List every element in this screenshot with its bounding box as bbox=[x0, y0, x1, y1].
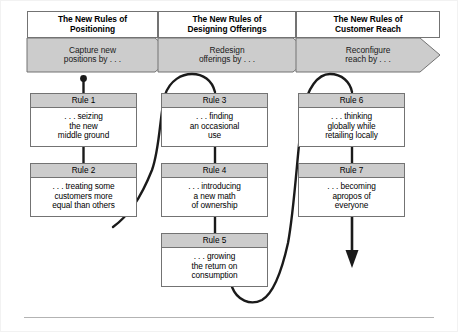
rule-1-text: . . . seizing the new middle ground bbox=[31, 108, 136, 146]
rule-4-line3: of ownership bbox=[188, 201, 241, 211]
rule-1-line3: middle ground bbox=[58, 131, 109, 141]
rule-2-label: Rule 2 bbox=[31, 164, 136, 178]
column-2-title-line2: Designing Offerings bbox=[187, 24, 266, 34]
rule-box-2: Rule 2 . . . treating some customers mor… bbox=[30, 163, 137, 217]
column-1-title-line2: Positioning bbox=[70, 24, 115, 34]
rule-box-1: Rule 1 . . . seizing the new middle grou… bbox=[30, 93, 137, 147]
rule-6-line3: retailing locally bbox=[325, 131, 378, 141]
column-2-subtitle: Redesign offerings by . . . bbox=[158, 38, 296, 72]
header-column-3: The New Rules of Customer Reach Reconfig… bbox=[296, 11, 440, 72]
rule-box-3: Rule 3 . . . finding an occasional use bbox=[161, 93, 268, 147]
rule-7-line3: everyone bbox=[327, 201, 375, 211]
rule-box-5: Rule 5 . . . growing the return on consu… bbox=[161, 233, 268, 287]
column-3-title: The New Rules of Customer Reach bbox=[296, 11, 440, 38]
rule-box-4: Rule 4 . . . introducing a new math of o… bbox=[161, 163, 268, 217]
rule-box-7: Rule 7 . . . becoming apropos of everyon… bbox=[298, 163, 405, 217]
rule-6-text: . . . thinking globally while retailing … bbox=[299, 108, 404, 146]
column-1-subtitle-line2: positions by . . . bbox=[64, 54, 121, 64]
header-column-1: The New Rules of Positioning Capture new… bbox=[27, 11, 158, 72]
column-3-subtitle: Reconfigure reach by . . . bbox=[296, 38, 440, 72]
rule-2-line3: equal than others bbox=[52, 201, 114, 211]
rule-6-label: Rule 6 bbox=[299, 94, 404, 108]
header-column-2: The New Rules of Designing Offerings Red… bbox=[158, 11, 296, 72]
rule-3-line3: use bbox=[190, 131, 239, 141]
column-1-title: The New Rules of Positioning bbox=[27, 11, 158, 38]
rule-4-label: Rule 4 bbox=[162, 164, 267, 178]
rule-7-text: . . . becoming apropos of everyone bbox=[299, 178, 404, 216]
rule-5-text: . . . growing the return on consumption bbox=[162, 248, 267, 286]
rule-7-label: Rule 7 bbox=[299, 164, 404, 178]
rule-1-label: Rule 1 bbox=[31, 94, 136, 108]
column-2-title: The New Rules of Designing Offerings bbox=[158, 11, 296, 38]
column-1-subtitle: Capture new positions by . . . bbox=[27, 38, 158, 72]
rule-3-label: Rule 3 bbox=[162, 94, 267, 108]
header-band: The New Rules of Positioning Capture new… bbox=[27, 11, 440, 72]
rule-3-text: . . . finding an occasional use bbox=[162, 108, 267, 146]
rule-box-6: Rule 6 . . . thinking globally while ret… bbox=[298, 93, 405, 147]
column-3-subtitle-line2: reach by . . . bbox=[345, 54, 390, 64]
rule-5-line3: consumption bbox=[192, 271, 238, 281]
bottom-divider bbox=[24, 317, 434, 318]
column-3-title-line2: Customer Reach bbox=[335, 24, 401, 34]
rule-4-text: . . . introducing a new math of ownershi… bbox=[162, 178, 267, 216]
rule-2-text: . . . treating some customers more equal… bbox=[31, 178, 136, 216]
new-rules-diagram: The New Rules of Positioning Capture new… bbox=[0, 0, 458, 332]
column-2-subtitle-line2: offerings by . . . bbox=[199, 54, 255, 64]
rule-5-label: Rule 5 bbox=[162, 234, 267, 248]
